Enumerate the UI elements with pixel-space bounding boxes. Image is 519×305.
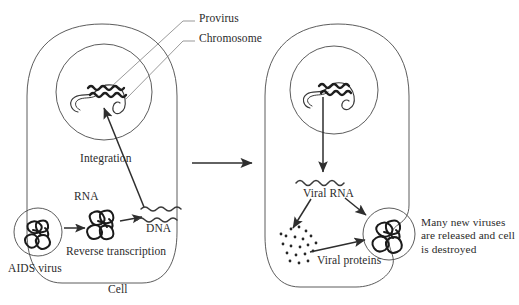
viral-proteins-dots <box>280 226 318 265</box>
virus-replication-diagram: Provirus Chromosome Integration RNA DNA … <box>0 0 519 305</box>
aids-virus-core <box>25 221 50 250</box>
label-dna: DNA <box>146 222 171 236</box>
label-provirus: Provirus <box>199 12 239 26</box>
label-chromosome: Chromosome <box>199 32 262 46</box>
right-provirus-band-top <box>319 84 349 88</box>
provirus-leader-line <box>112 21 195 86</box>
label-rna: RNA <box>74 190 99 204</box>
diagram-canvas <box>0 0 519 305</box>
label-cell: Cell <box>108 283 128 297</box>
label-aids-virus: AIDS virus <box>8 262 62 276</box>
right-cell-nucleus <box>290 46 378 134</box>
translation-arrow <box>293 199 311 228</box>
rna-tangle <box>87 211 113 240</box>
assembly-arrow <box>310 240 365 252</box>
left-chromosome-strand-inner <box>76 95 98 110</box>
right-chromosome-strand-inner <box>308 92 329 106</box>
label-integration: Integration <box>80 152 132 166</box>
chromosome-leader-line <box>126 41 195 99</box>
label-viral-rna: Viral RNA <box>303 187 354 201</box>
label-reverse-transcription: Reverse transcription <box>66 245 166 259</box>
label-outcome: Many new viruses are released and cell i… <box>421 216 517 256</box>
right-cell-group <box>265 24 415 287</box>
label-viral-proteins: Viral proteins <box>317 254 381 268</box>
dna-strand-upper <box>141 207 181 211</box>
viral-rna-strand <box>296 181 344 186</box>
